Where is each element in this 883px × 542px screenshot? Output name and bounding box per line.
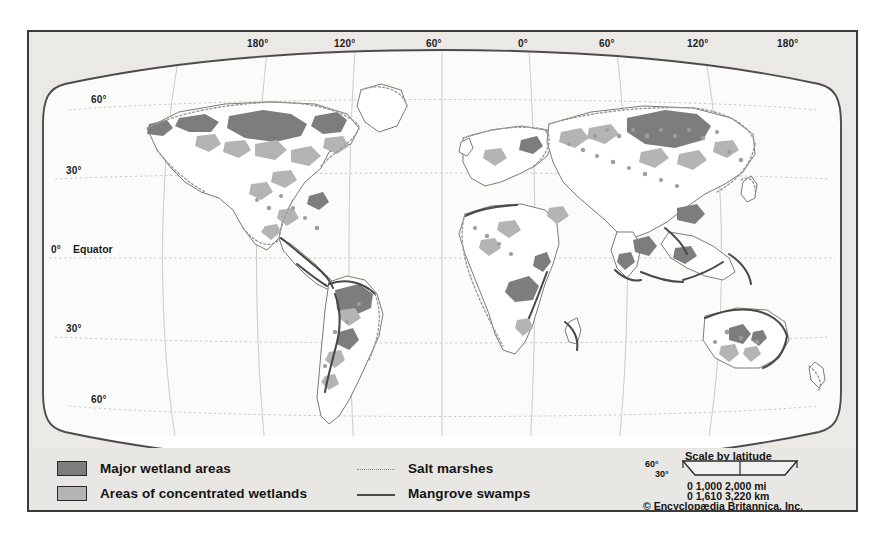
lat-label-60s: 60°: [91, 394, 107, 405]
scale-lat-30-label: 30°: [655, 469, 669, 479]
mangrove-label: Mangrove swamps: [408, 486, 530, 501]
major-wetland-label: Major wetland areas: [100, 461, 231, 476]
major-wetland-swatch-icon: [57, 461, 87, 476]
lon-label-180e: 180°: [777, 38, 798, 49]
lat-label-30n: 30°: [66, 165, 82, 176]
salt-marsh-label: Salt marshes: [408, 461, 493, 476]
legend-item-salt-marshes: Salt marshes: [357, 458, 530, 479]
lon-label-120w: 120°: [334, 38, 355, 49]
mangrove-line-icon: [357, 487, 395, 501]
lat-label-30s: 30°: [66, 323, 82, 334]
lat-label-60n: 60°: [91, 94, 107, 105]
lon-label-180w: 180°: [247, 38, 268, 49]
lon-label-60e: 60°: [599, 38, 615, 49]
world-map-svg: [29, 32, 856, 450]
legend-item-major-wetland: Major wetland areas: [57, 458, 307, 479]
salt-marsh-line-icon: [357, 462, 395, 476]
map-legend: Major wetland areas Areas of concentrate…: [29, 448, 856, 510]
map-plate: 180° 120° 60° 0° 60° 120° 180° 60° 30° 0…: [29, 32, 856, 450]
legend-line-keys: Salt marshes Mangrove swamps: [357, 458, 530, 508]
copyright-credit: © Encyclopædia Britannica, Inc.: [643, 500, 803, 512]
concentrated-wetland-swatch-icon: [57, 486, 87, 501]
lon-label-120e: 120°: [687, 38, 708, 49]
legend-item-mangrove-swamps: Mangrove swamps: [357, 483, 530, 504]
lon-label-0: 0°: [518, 38, 528, 49]
scale-lat-60-label: 60°: [645, 459, 659, 469]
screenshot-root: 180° 120° 60° 0° 60° 120° 180° 60° 30° 0…: [0, 0, 883, 542]
lat-label-0: 0°: [51, 244, 61, 255]
legend-item-concentrated-wetland: Areas of concentrated wetlands: [57, 483, 307, 504]
scale-bar-icon: [681, 459, 799, 479]
concentrated-wetland-label: Areas of concentrated wetlands: [100, 486, 307, 501]
scale-block: Scale by latitude 60° 30° 0 1,000 2,000 …: [641, 450, 853, 510]
legend-area-keys: Major wetland areas Areas of concentrate…: [57, 458, 307, 508]
equator-label: Equator: [73, 243, 113, 255]
map-figure-frame: 180° 120° 60° 0° 60° 120° 180° 60° 30° 0…: [27, 30, 858, 512]
lon-label-60w: 60°: [426, 38, 442, 49]
